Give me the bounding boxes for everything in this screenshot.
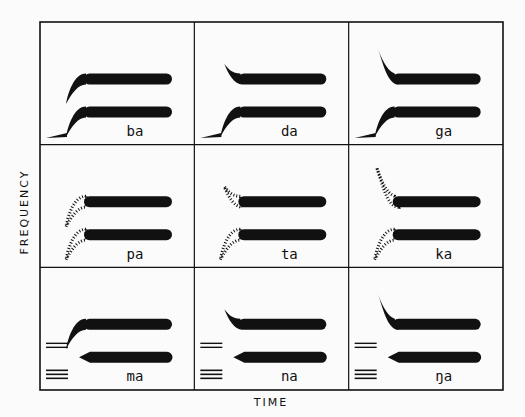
syllable-label: ba <box>127 123 144 139</box>
f2-transition <box>224 309 242 330</box>
f1-steady-state <box>79 352 173 363</box>
cell-ta: ta <box>220 187 326 262</box>
f2-steady-state <box>238 319 326 330</box>
syllable-label: na <box>281 368 298 384</box>
cell-ŋa: ŋa <box>355 290 482 384</box>
f2-transition <box>66 74 86 105</box>
f2-transition <box>66 196 86 227</box>
cell-ga: ga <box>355 45 481 139</box>
f2-transition <box>224 64 242 85</box>
f2-steady-state <box>238 196 326 207</box>
f2-transition <box>377 290 399 330</box>
syllable-label: ka <box>435 246 452 262</box>
cell-ba: ba <box>46 74 172 140</box>
syllable-label: da <box>281 123 298 139</box>
f2-steady-state <box>84 74 172 85</box>
f1-steady-state <box>388 352 482 363</box>
syllable-label: ma <box>127 368 144 384</box>
f2-transition <box>66 319 86 350</box>
f2-steady-state <box>393 319 481 330</box>
f2-steady-state <box>84 319 172 330</box>
f2-steady-state <box>393 196 481 207</box>
f2-steady-state <box>393 74 481 85</box>
voice-bar <box>355 133 376 138</box>
spectrogram-grid: badagapatakamanaŋa <box>0 0 525 417</box>
x-axis-label: TIME <box>254 396 288 409</box>
f1-transition <box>220 229 240 259</box>
f1-transition <box>375 229 395 259</box>
cell-ma: ma <box>46 319 173 385</box>
cell-da: da <box>200 64 326 139</box>
cell-na: na <box>200 309 327 384</box>
f1-transition <box>375 107 395 138</box>
f2-steady-state <box>84 196 172 207</box>
f1-steady-state <box>393 229 481 240</box>
f1-transition <box>66 107 86 138</box>
f1-steady-state <box>393 107 481 118</box>
f1-steady-state <box>84 107 172 118</box>
f1-steady-state <box>238 107 326 118</box>
f2-transition <box>377 45 399 85</box>
cell-pa: pa <box>66 196 172 261</box>
f1-steady-state <box>84 229 172 240</box>
voice-bar <box>46 133 67 138</box>
f2-steady-state <box>238 74 326 85</box>
syllable-label: ta <box>281 246 298 262</box>
cell-ka: ka <box>375 168 481 262</box>
f1-steady-state <box>238 229 326 240</box>
y-axis-label: FREQUENCY <box>18 169 31 254</box>
f1-transition <box>66 229 86 259</box>
f1-steady-state <box>233 352 327 363</box>
f1-transition <box>220 107 240 138</box>
syllable-label: ŋa <box>435 368 452 384</box>
cells: badagapatakamanaŋa <box>46 45 481 384</box>
syllable-label: pa <box>127 246 144 262</box>
voice-bar <box>200 133 221 138</box>
syllable-label: ga <box>435 123 452 139</box>
